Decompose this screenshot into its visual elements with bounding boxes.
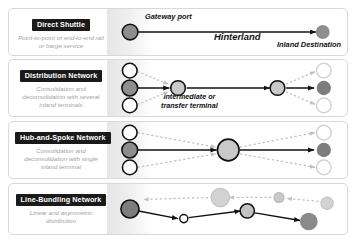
edge-node-1-to-node-2 (189, 211, 241, 218)
graph-distribution-network (9, 60, 348, 116)
node-backhaul-large (211, 188, 229, 206)
node-destination-mid (317, 143, 331, 157)
node-destination-top (316, 63, 331, 78)
row-line-bundling-network: Line-Bundling Network Linear and asymmet… (8, 183, 348, 235)
edge-backhaul-2 (143, 197, 212, 199)
edge-terminal-2-to-destination-bottom (286, 92, 315, 105)
node-origin-bottom (122, 98, 137, 113)
node-small-terminal (180, 215, 188, 223)
node-gateway-port (122, 142, 138, 158)
node-intermediate-terminal-1 (171, 81, 186, 96)
edge-node-2-to-destination (255, 213, 300, 221)
row-direct-shuttle: Direct Shuttle Point-to-point or end-to-… (8, 8, 348, 56)
node-backhaul-end (321, 197, 333, 209)
node-origin-top (122, 125, 137, 140)
node-destination-mid (317, 81, 331, 95)
edge-origin-top-to-hub (137, 133, 215, 147)
edge-gateway-to-node-1 (139, 211, 178, 219)
node-gateway-port (121, 200, 139, 218)
node-origin-bottom (122, 160, 137, 175)
edge-hub-to-destination-bottom (240, 154, 315, 168)
edge-origin-bottom-to-hub (137, 154, 215, 168)
edge-origin-bottom-to-terminal-1 (137, 92, 168, 105)
graph-line-bundling-network (9, 184, 348, 234)
edge-terminal-2-to-destination-top (286, 72, 315, 85)
node-gateway-port (122, 24, 138, 40)
edge-hub-to-destination-top (240, 133, 315, 147)
node-inland-destination (300, 213, 318, 231)
node-inland-destination (316, 25, 330, 39)
node-inland-hub (217, 139, 239, 161)
row-distribution-network: Distribution Network Consolidation and d… (8, 59, 348, 117)
node-destination-bottom (316, 160, 331, 175)
node-medium-terminal (240, 204, 254, 218)
graph-hub-and-spoke-network (9, 122, 348, 178)
network-typology-diagram: Direct Shuttle Point-to-point or end-to-… (0, 0, 356, 245)
graph-direct-shuttle (9, 9, 348, 55)
node-backhaul-small (274, 192, 284, 202)
node-origin-top (122, 63, 137, 78)
edge-origin-top-to-terminal-1 (137, 72, 168, 85)
edge-backhaul-4 (287, 198, 319, 201)
node-intermediate-terminal-2 (270, 81, 285, 96)
node-gateway-port (122, 80, 138, 96)
node-destination-top (316, 125, 331, 140)
row-hub-and-spoke-network: Hub-and-Spoke Network Consolidation and … (8, 121, 348, 179)
node-destination-bottom (316, 98, 331, 113)
